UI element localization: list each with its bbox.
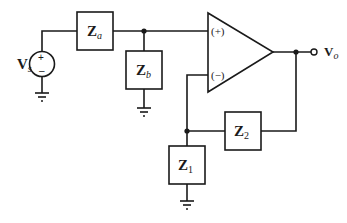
output-terminal	[311, 49, 317, 55]
opamp-minus-input-label: (−)	[211, 69, 225, 82]
ground-icon	[35, 93, 49, 101]
output-label: Vo	[324, 44, 338, 61]
opamp-plus-input-label: (+)	[211, 25, 225, 38]
circuit-diagram: + – Vs Za Zb (+) (−) Vo Z2 Z1	[0, 0, 347, 223]
source-minus-sign: –	[39, 65, 45, 76]
voltage-source: + –	[30, 31, 78, 93]
ground-icon	[180, 201, 194, 209]
source-plus-sign: +	[38, 52, 44, 63]
feedback-node	[184, 128, 189, 133]
ground-icon	[137, 108, 151, 116]
source-label: Vs	[17, 56, 32, 74]
